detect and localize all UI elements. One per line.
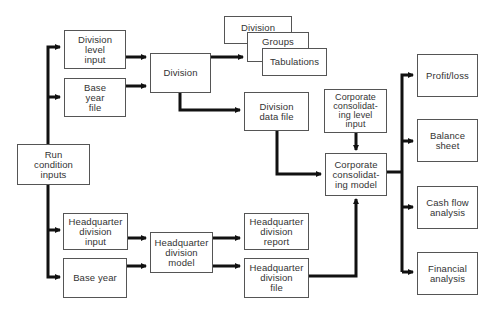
node-profit-loss: Profit/loss: [417, 54, 478, 97]
arrow-hq-file-to-corporate-model: [308, 199, 356, 276]
node-corporate-consolidating-level-input: Corporate consolidat- ing level input: [324, 89, 387, 133]
node-headquarter-division-report: Headquarter division report: [244, 213, 309, 250]
node-division-data-file: Division data file: [244, 92, 309, 131]
node-headquarter-division-input: Headquarter division input: [63, 213, 128, 250]
node-balance-sheet: Balance sheet: [417, 119, 478, 162]
node-headquarter-division-model: Headquarter division model: [150, 232, 213, 273]
node-base-year-file: Base year file: [64, 78, 126, 117]
node-run-condition-inputs: Run condition inputs: [17, 144, 90, 185]
arrow-to-profit-loss: [402, 75, 413, 272]
flowchart-diagram: Run condition inputs Division level inpu…: [0, 0, 491, 311]
node-financial-analysis: Financial analysis: [417, 252, 478, 295]
node-report-tabulations: Tabulations: [262, 48, 327, 76]
arrow-division-to-data-file: [180, 92, 240, 110]
node-division-level-input: Division level input: [64, 30, 126, 69]
node-cash-flow-analysis: Cash flow analysis: [417, 186, 478, 229]
node-base-year: Base year: [63, 258, 127, 298]
node-corporate-consolidating-model: Corporate consolidat- ing model: [325, 153, 387, 196]
node-headquarter-division-file: Headquarter division file: [244, 258, 309, 298]
arrow-data-file-to-corporate-model: [277, 130, 321, 174]
node-division: Division: [150, 53, 211, 93]
